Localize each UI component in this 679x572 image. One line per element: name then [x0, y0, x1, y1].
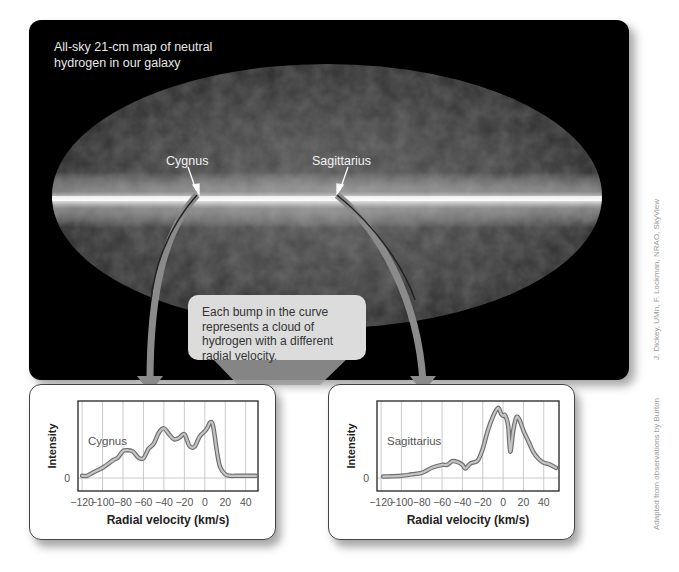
map-credit: J. Dickey, UMn, F. Lockman, NRAO, SkyVie… [652, 199, 661, 360]
x-tick-label: −100 [390, 496, 414, 508]
label-sagittarius: Sagittarius [312, 154, 371, 168]
y-axis-label: Intensity [46, 423, 58, 469]
x-tick-label: −80 [413, 496, 431, 508]
map-title-line-2: hydrogen in our galaxy [54, 55, 254, 71]
y-tick-label: 0 [64, 472, 70, 484]
x-tick-label: 20 [219, 496, 231, 508]
cygnus-spectrum-card: −120−100−80−60−40−20020400IntensityRadia… [29, 384, 276, 540]
x-tick-label: 0 [202, 496, 208, 508]
x-tick-label: −20 [175, 496, 193, 508]
x-tick-label: −40 [454, 496, 472, 508]
x-tick-label: −20 [474, 496, 492, 508]
x-axis-label: Radial velocity (km/s) [107, 513, 230, 527]
x-tick-label: −80 [114, 496, 132, 508]
x-tick-label: −40 [155, 496, 173, 508]
spectrum-curve [82, 422, 256, 476]
label-cygnus: Cygnus [166, 154, 208, 168]
y-tick-label: 0 [363, 472, 369, 484]
plot-credit: Adapted from observations by Burton [652, 398, 661, 530]
x-axis-label: Radial velocity (km/s) [407, 513, 530, 527]
callout-box: Each bump in the curve represents a clou… [188, 295, 366, 360]
spectrum-curve-outline [82, 422, 256, 476]
cygnus-spectrum-chart: −120−100−80−60−40−20020400IntensityRadia… [30, 385, 275, 539]
sagittarius-spectrum-card: −120−100−80−60−40−20020400IntensityRadia… [328, 384, 575, 540]
series-label: Sagittarius [387, 435, 442, 447]
x-tick-label: 20 [518, 496, 530, 508]
x-tick-label: −100 [91, 496, 115, 508]
sagittarius-spectrum-chart: −120−100−80−60−40−20020400IntensityRadia… [329, 385, 574, 539]
x-tick-label: 40 [240, 496, 252, 508]
x-tick-label: −60 [433, 496, 451, 508]
x-tick-label: 40 [538, 496, 550, 508]
map-title-line-1: All-sky 21-cm map of neutral [54, 39, 254, 55]
map-title: All-sky 21-cm map of neutral hydrogen in… [54, 39, 254, 71]
x-tick-label: −60 [135, 496, 153, 508]
series-label: Cygnus [88, 435, 127, 447]
y-axis-label: Intensity [345, 423, 357, 469]
x-tick-label: 0 [500, 496, 506, 508]
